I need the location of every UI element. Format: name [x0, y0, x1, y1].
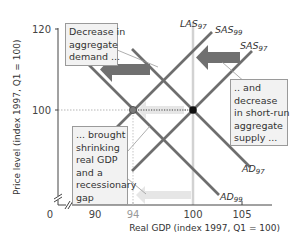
x-tick-100: 100 [183, 209, 202, 220]
y-tick-120: 120 [32, 24, 51, 35]
y-axis-title: Price level (index 1997, Q1 = 100) [12, 40, 22, 195]
callout-recessionary-gap: ... brought shrinking real GDP and a rec… [72, 126, 128, 205]
callout-line: shrinking [76, 142, 124, 155]
callout-line: gap [76, 192, 124, 205]
callout-line: supply ... [234, 132, 284, 145]
callout-line: Decrease in [69, 26, 114, 39]
callout-line: and a [76, 167, 124, 180]
callout-line: recessionary [76, 179, 124, 192]
y-axis [54, 28, 62, 205]
equilibrium-point-1997 [189, 106, 197, 114]
callout-line: aggregate [234, 120, 284, 133]
callout-line: ... brought [76, 129, 124, 142]
callout-supply-decrease: .. and decrease in short-run aggregate s… [230, 79, 288, 146]
x-tick-105: 105 [232, 209, 251, 220]
callout-line: .. and [234, 82, 284, 95]
gap-leader-line-1 [128, 126, 150, 151]
callout-demand-decrease: Decrease in aggregate demand ... [65, 23, 118, 66]
callout-line: demand ... [69, 51, 114, 64]
x-tick-0: 0 [47, 209, 53, 220]
sas97-label: SAS97 [240, 40, 268, 53]
equilibrium-point-1999 [129, 106, 136, 113]
gdp-shrink-arrow [136, 186, 191, 204]
x-axis-title: Real GDP (index 1997, Q1 = 100) [129, 223, 280, 233]
y-tick-100: 100 [32, 105, 51, 116]
ad97-label: AD97 [241, 163, 265, 176]
sas-shift-arrow [196, 45, 240, 70]
sas99-label: SAS99 [215, 24, 243, 37]
callout-line: real GDP [76, 154, 124, 167]
callout-line: in short-run [234, 107, 284, 120]
x-tick-90: 90 [89, 209, 102, 220]
callout-line: aggregate [69, 39, 114, 52]
ad99-label: AD99 [219, 191, 243, 204]
x-tick-94: 94 [127, 209, 140, 220]
callout-line: decrease [234, 95, 284, 108]
